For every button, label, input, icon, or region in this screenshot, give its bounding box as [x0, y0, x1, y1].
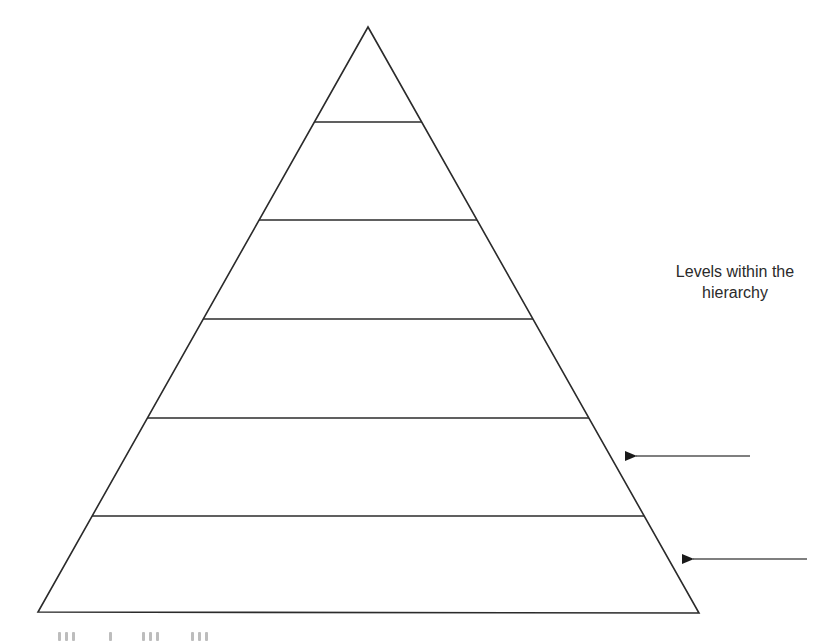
hierarchy-pyramid-diagram [0, 0, 840, 641]
label-line-2: hierarchy [648, 282, 822, 303]
hierarchy-levels-label: Levels within the hierarchy [648, 261, 822, 303]
cut-off-caption [58, 632, 208, 641]
label-line-1: Levels within the [648, 261, 822, 282]
pyramid-outline [38, 27, 699, 613]
